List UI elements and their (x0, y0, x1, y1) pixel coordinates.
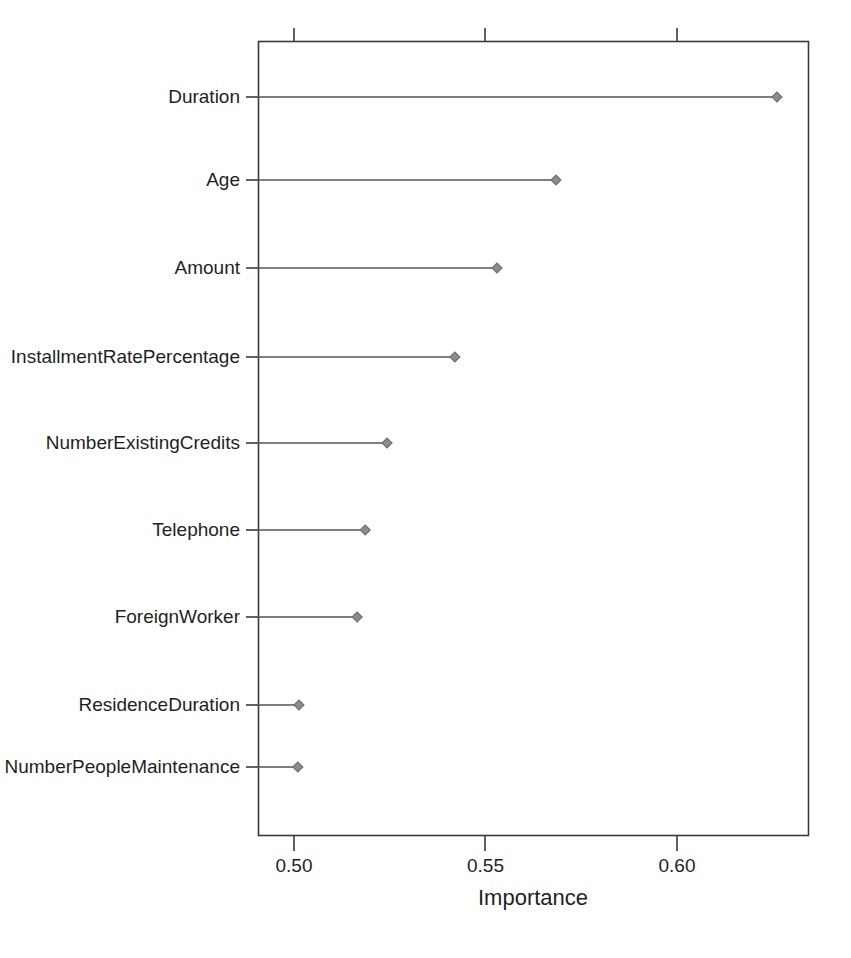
category-label-installmentratepercentage: InstallmentRatePercentage (11, 346, 240, 367)
data-point-residenceduration (294, 700, 304, 710)
data-series-layer (258, 92, 782, 772)
data-point-amount (492, 263, 502, 273)
chart-canvas: DurationAgeAmountInstallmentRatePercenta… (0, 0, 851, 958)
category-labels: DurationAgeAmountInstallmentRatePercenta… (4, 86, 240, 777)
category-label-duration: Duration (168, 86, 240, 107)
category-label-age: Age (206, 169, 240, 190)
category-label-telephone: Telephone (152, 519, 240, 540)
data-point-age (551, 175, 561, 185)
category-label-numberexistingcredits: NumberExistingCredits (46, 432, 240, 453)
data-point-numberexistingcredits (382, 438, 392, 448)
x-axis-title: Importance (478, 885, 588, 910)
top-axis-ticks (294, 28, 677, 41)
data-point-duration (772, 92, 782, 102)
importance-dot-chart: DurationAgeAmountInstallmentRatePercenta… (0, 0, 851, 958)
category-label-residenceduration: ResidenceDuration (78, 694, 240, 715)
x-tick-label-1: 0.55 (467, 855, 504, 876)
data-point-foreignworker (352, 612, 362, 622)
data-point-installmentratepercentage (450, 352, 460, 362)
data-point-telephone (360, 525, 370, 535)
category-label-foreignworker: ForeignWorker (115, 606, 241, 627)
category-label-amount: Amount (175, 257, 241, 278)
x-tick-label-0: 0.50 (276, 855, 313, 876)
bottom-axis-ticks (294, 836, 677, 851)
plot-frame (259, 42, 809, 836)
x-tick-label-2: 0.60 (659, 855, 696, 876)
x-axis-tick-labels: 0.500.550.60 (276, 855, 696, 876)
left-axis-ticks (246, 97, 258, 767)
category-label-numberpeoplemaintenance: NumberPeopleMaintenance (4, 756, 240, 777)
data-point-numberpeoplemaintenance (293, 762, 303, 772)
